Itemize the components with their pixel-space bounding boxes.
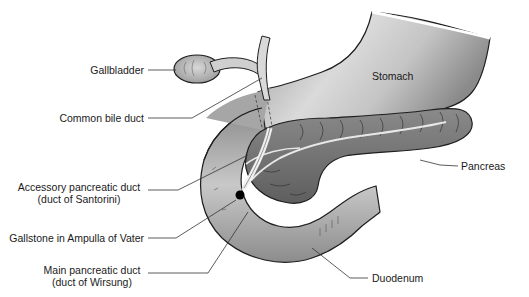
label-accessory-line2: (duct of Santorini) xyxy=(14,193,144,205)
label-stomach: Stomach xyxy=(372,70,413,82)
gallbladder xyxy=(174,55,262,83)
label-common-bile-duct: Common bile duct xyxy=(59,112,144,124)
common-bile-duct xyxy=(257,36,270,100)
label-main-line1: Main pancreatic duct xyxy=(40,264,144,276)
label-accessory-line1: Accessory pancreatic duct xyxy=(14,181,144,193)
label-main-line2: (duct of Wirsung) xyxy=(40,276,144,288)
anatomy-illustration xyxy=(0,0,529,297)
label-accessory-pancreatic-duct: Accessory pancreatic duct (duct of Santo… xyxy=(14,181,144,205)
label-pancreas: Pancreas xyxy=(461,160,505,172)
anatomy-diagram: Gallbladder Common bile duct Accessory p… xyxy=(0,0,529,297)
gallstone xyxy=(236,191,245,200)
label-main-pancreatic-duct: Main pancreatic duct (duct of Wirsung) xyxy=(40,264,144,288)
label-duodenum: Duodenum xyxy=(372,272,423,284)
label-gallstone: Gallstone in Ampulla of Vater xyxy=(9,232,144,244)
label-gallbladder: Gallbladder xyxy=(90,64,144,76)
